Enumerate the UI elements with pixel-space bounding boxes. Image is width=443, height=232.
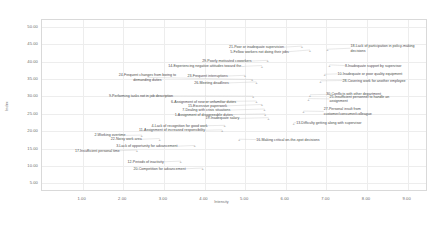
data-point-label: 27-Personal insult from customer/consume…	[324, 107, 372, 116]
data-point-label: 29-Poorly motivated coworkers	[202, 59, 251, 63]
data-point-label: 24-Frequent changes from boring to deman…	[119, 73, 176, 82]
data-point-label: 18-Lack of participation in policy-makin…	[351, 44, 415, 53]
scatter-chart-figure: 5.0010.0015.0020.0025.0030.0035.0040.004…	[0, 0, 443, 232]
data-point-label: 5-Fellow workers not doing their jobs	[230, 49, 289, 53]
data-point-label: 23-Frequent interruptions	[188, 74, 228, 78]
data-point-label: 22-Noisy work area	[111, 137, 142, 141]
data-point-label: 25-Insufficient personnel to handle an a…	[329, 95, 389, 104]
data-point-label: 3-Lack of opportunity for advancement	[116, 144, 177, 148]
data-point-label: 16-Making critical on-the-spot decisions	[256, 137, 319, 141]
data-point-label: 10-Inadequate or poor quality equipment	[338, 72, 403, 76]
data-point-label: 12-Periods of inactivity	[128, 160, 164, 164]
data-point-label: 9-Performing tasks not in job descriptio…	[109, 94, 173, 98]
data-point-label: 8-Inadequate support by supervisor	[345, 63, 402, 67]
data-point-label: 14-Experiencing negative attitudes towar…	[168, 64, 244, 68]
data-point-label: 11-Assignment of increased responsibilit…	[139, 128, 205, 132]
data-point-label: 20-Competition for advancement	[134, 167, 186, 171]
data-point-label: 13-Difficulty getting along with supervi…	[296, 120, 361, 124]
data-point-labels: 21-Poor or inadequate supervision5-Fello…	[0, 0, 443, 232]
data-point-label: 19-Inadequate salary	[206, 116, 240, 120]
data-point-label: 28-Covering work for another employee	[342, 78, 405, 82]
data-point-label: 26-Meeting deadlines	[194, 81, 228, 85]
data-point-label: 17-Insufficient personal time	[75, 148, 120, 152]
